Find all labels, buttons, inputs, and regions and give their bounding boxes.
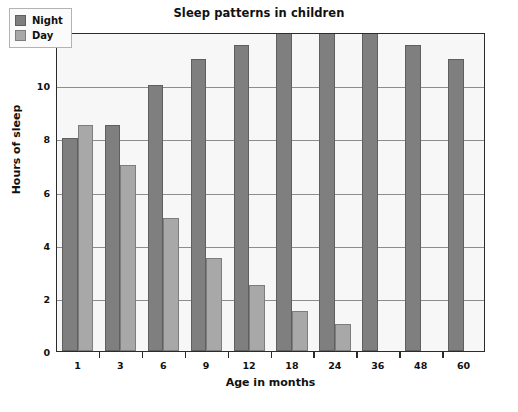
x-axis-title: Age in months <box>56 376 485 389</box>
x-tick-label: 24 <box>328 360 341 371</box>
x-tick-mark <box>99 352 101 358</box>
bar-night[interactable] <box>62 138 78 351</box>
legend: Night Day <box>9 8 72 48</box>
bar-night[interactable] <box>276 33 292 351</box>
x-tick-label: 3 <box>117 360 124 371</box>
legend-item-day[interactable]: Day <box>15 28 63 43</box>
bar-group <box>57 34 100 351</box>
bar-night[interactable] <box>448 59 464 351</box>
bar-day[interactable] <box>249 285 265 351</box>
x-tick-mark <box>271 352 273 358</box>
bar-day[interactable] <box>335 324 351 351</box>
plot-area <box>56 33 485 352</box>
bar-night[interactable] <box>362 33 378 351</box>
x-tick-label: 12 <box>242 360 255 371</box>
bar-day[interactable] <box>78 125 94 351</box>
bar-night[interactable] <box>234 45 250 351</box>
bar-group <box>100 34 143 351</box>
y-tick-label: 0 <box>6 347 50 358</box>
x-tick-mark <box>313 352 315 358</box>
x-tick-mark <box>228 352 230 358</box>
x-tick-label: 48 <box>414 360 427 371</box>
legend-item-night[interactable]: Night <box>15 13 63 28</box>
y-tick-label: 4 <box>6 240 50 251</box>
bar-group <box>186 34 229 351</box>
y-tick-label: 8 <box>6 134 50 145</box>
legend-label-night: Night <box>32 15 63 26</box>
bar-chart: Sleep patterns in children Hours of slee… <box>0 0 518 412</box>
x-tick-label: 6 <box>160 360 167 371</box>
bar-night[interactable] <box>148 85 164 351</box>
x-tick-mark <box>356 352 358 358</box>
x-tick-mark <box>442 352 444 358</box>
bar-night[interactable] <box>191 59 207 351</box>
x-tick-mark <box>142 352 144 358</box>
y-tick-label: 2 <box>6 293 50 304</box>
bar-group <box>143 34 186 351</box>
bar-group <box>400 34 443 351</box>
y-tick-label: 10 <box>6 81 50 92</box>
bar-night[interactable] <box>105 125 121 351</box>
bar-day[interactable] <box>206 258 222 351</box>
x-tick-label: 18 <box>285 360 298 371</box>
legend-swatch-day-icon <box>15 30 26 41</box>
bar-day[interactable] <box>163 218 179 351</box>
x-tick-label: 36 <box>371 360 384 371</box>
x-tick-mark <box>399 352 401 358</box>
bar-group <box>314 34 357 351</box>
bar-group <box>229 34 272 351</box>
x-tick-mark <box>185 352 187 358</box>
bar-night[interactable] <box>319 33 335 351</box>
bar-group <box>357 34 400 351</box>
x-tick-label: 60 <box>457 360 470 371</box>
x-tick-label: 1 <box>74 360 81 371</box>
chart-title: Sleep patterns in children <box>0 6 518 20</box>
bar-group <box>272 34 315 351</box>
y-tick-label: 6 <box>6 187 50 198</box>
bar-night[interactable] <box>405 45 421 351</box>
legend-label-day: Day <box>32 30 53 41</box>
bars-layer <box>57 34 484 351</box>
bar-day[interactable] <box>120 165 136 351</box>
bar-day[interactable] <box>292 311 308 351</box>
x-tick-label: 9 <box>203 360 210 371</box>
legend-swatch-night-icon <box>15 15 26 26</box>
bar-group <box>443 34 485 351</box>
